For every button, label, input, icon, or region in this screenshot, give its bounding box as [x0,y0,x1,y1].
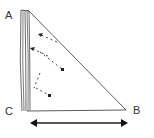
double-arrow [30,119,128,127]
diagram-canvas [0,0,154,138]
vertex-label-c: C [5,106,13,117]
vertex-label-a: A [5,10,12,21]
arrow-heads [30,33,64,97]
edge-ab [28,10,126,110]
edge-cb [27,110,126,111]
edge-ac [20,10,30,111]
dashed-arrows [33,35,62,95]
triangle-diagram: A B C [0,0,154,138]
vertex-label-b: B [133,105,140,116]
